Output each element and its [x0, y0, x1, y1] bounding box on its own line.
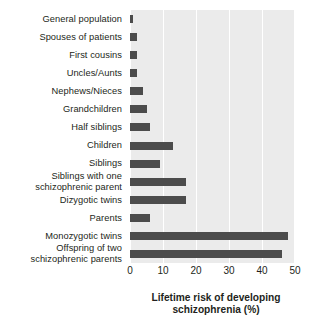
bar: [130, 214, 150, 222]
category-label-line: Children: [0, 140, 122, 151]
bar: [130, 105, 147, 113]
category-label-line: schizophrenic parents: [0, 254, 122, 265]
category-label: Nephews/Nieces: [0, 86, 122, 97]
category-label: Grandchildren: [0, 104, 122, 115]
x-axis-title: Lifetime risk of developing schizophreni…: [118, 292, 314, 316]
gridline: [294, 10, 295, 263]
category-label: Uncles/Aunts: [0, 68, 122, 79]
category-label: Parents: [0, 213, 122, 224]
gridline: [163, 10, 164, 263]
category-label-line: Spouses of patients: [0, 32, 122, 43]
category-label: Offspring of twoschizophrenic parents: [0, 243, 122, 264]
bar: [130, 160, 160, 168]
category-label-line: Grandchildren: [0, 104, 122, 115]
category-label: Spouses of patients: [0, 32, 122, 43]
category-label: Half siblings: [0, 122, 122, 133]
x-tick-label: 30: [223, 265, 234, 276]
x-tick-label: 20: [190, 265, 201, 276]
category-label: First cousins: [0, 50, 122, 61]
category-label: Siblings: [0, 158, 122, 169]
category-label: Children: [0, 140, 122, 151]
category-label-line: Offspring of two: [0, 243, 122, 254]
plot-area: [130, 10, 295, 263]
category-label: General population: [0, 14, 122, 25]
category-label-line: First cousins: [0, 50, 122, 61]
bar: [130, 33, 137, 41]
x-tick-label: 40: [256, 265, 267, 276]
bar: [130, 232, 288, 240]
bar: [130, 142, 173, 150]
category-label-line: Nephews/Nieces: [0, 86, 122, 97]
bar: [130, 87, 143, 95]
category-label: Siblings with oneschizophrenic parent: [0, 171, 122, 192]
bar: [130, 123, 150, 131]
x-tick-label: 10: [157, 265, 168, 276]
category-label: Dizygotic twins: [0, 195, 122, 206]
gridline: [229, 10, 230, 263]
x-axis-title-line-1: Lifetime risk of developing: [151, 292, 280, 303]
bar: [130, 250, 282, 258]
category-label: Monozygotic twins: [0, 231, 122, 242]
bar-chart-figure: General populationSpouses of patientsFir…: [0, 0, 314, 323]
gridline: [130, 10, 131, 263]
x-axis-tick-labels: 01020304050: [130, 265, 295, 281]
category-label-line: schizophrenic parent: [0, 182, 122, 193]
bar: [130, 178, 186, 186]
category-label-line: Uncles/Aunts: [0, 68, 122, 79]
category-label-line: Siblings: [0, 158, 122, 169]
category-label-line: General population: [0, 14, 122, 25]
x-axis-title-line-2: schizophrenia (%): [118, 304, 314, 316]
category-label-line: Dizygotic twins: [0, 195, 122, 206]
category-label-line: Monozygotic twins: [0, 231, 122, 242]
bar: [130, 196, 186, 204]
gridline: [262, 10, 263, 263]
x-tick-label: 50: [289, 265, 300, 276]
bar: [130, 69, 137, 77]
category-label-line: Half siblings: [0, 122, 122, 133]
bar: [130, 51, 137, 59]
bar: [130, 15, 133, 23]
category-label-line: Parents: [0, 213, 122, 224]
gridline: [196, 10, 197, 263]
category-axis-labels: General populationSpouses of patientsFir…: [0, 10, 126, 263]
x-tick-label: 0: [127, 265, 133, 276]
category-label-line: Siblings with one: [0, 171, 122, 182]
